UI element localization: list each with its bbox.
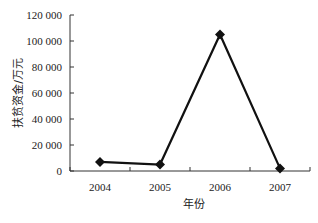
y-tick-label: 40 000 — [32, 113, 63, 125]
x-axis: 2004200520062007 — [70, 167, 310, 193]
y-axis: 020 00040 00060 00080 000100 000120 000 — [26, 9, 74, 177]
y-tick-label: 80 000 — [32, 61, 63, 73]
diamond-marker — [275, 163, 285, 173]
x-tick-label: 2007 — [269, 181, 292, 193]
diamond-marker — [95, 157, 105, 167]
line-chart: 020 00040 00060 00080 000100 000120 000 … — [0, 0, 318, 223]
diamond-marker — [215, 30, 225, 40]
x-tick-label: 2004 — [89, 181, 112, 193]
y-tick-label: 20 000 — [32, 139, 63, 151]
y-tick-label: 60 000 — [32, 87, 63, 99]
y-axis-title: 扶贫资金/万元 — [11, 58, 25, 128]
y-tick-label: 120 000 — [26, 9, 62, 21]
x-axis-title: 年份 — [183, 197, 205, 211]
y-tick-label: 100 000 — [26, 35, 62, 47]
data-series — [95, 30, 285, 174]
x-tick-label: 2006 — [209, 181, 232, 193]
x-tick-label: 2005 — [149, 181, 172, 193]
y-tick-label: 0 — [57, 165, 63, 177]
series-line — [100, 35, 280, 169]
diamond-marker — [155, 160, 165, 170]
